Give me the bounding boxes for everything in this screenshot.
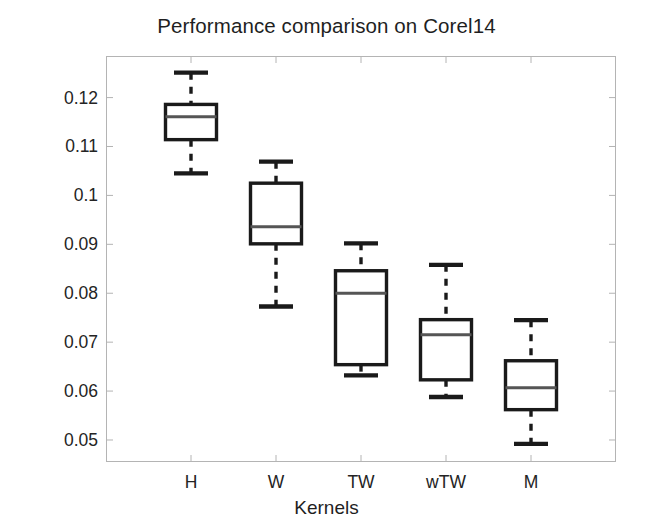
x-axis-tick-label: M	[524, 472, 539, 493]
box-iqr	[506, 361, 557, 410]
box-iqr	[336, 271, 387, 365]
box-plot-TW	[336, 243, 387, 375]
x-axis-title: Kernels	[0, 497, 653, 519]
box-plot-M	[506, 320, 557, 444]
y-axis-tick-label: 0.1	[28, 185, 98, 206]
box-plot-W	[251, 162, 302, 307]
x-axis-tick-label: W	[268, 472, 285, 493]
box-plot-series	[166, 73, 557, 444]
box-iqr	[421, 320, 472, 380]
y-axis-tick-label: 0.08	[28, 283, 98, 304]
x-axis-tick-label: H	[185, 472, 198, 493]
y-axis-tick-label: 0.11	[28, 136, 98, 157]
y-axis-tick-label: 0.06	[28, 381, 98, 402]
box-plot-H	[166, 73, 217, 174]
y-axis-tick-label: 0.07	[28, 332, 98, 353]
figure-container: Performance comparison on Corel14 0.050.…	[0, 0, 653, 529]
box-iqr	[166, 104, 217, 139]
box-iqr	[251, 183, 302, 244]
y-axis-tick-label: 0.05	[28, 429, 98, 450]
x-axis-tick-label: TW	[347, 472, 374, 493]
y-axis-tick-label: 0.09	[28, 234, 98, 255]
y-axis-tick-label: 0.12	[28, 87, 98, 108]
x-axis-tick-label: wTW	[426, 472, 466, 493]
box-plot-wTW	[421, 265, 472, 397]
